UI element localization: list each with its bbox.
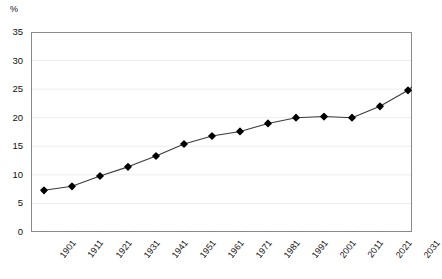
data-point-marker bbox=[377, 103, 383, 109]
x-tick-label: 1991 bbox=[310, 238, 330, 260]
x-tick-label: 2001 bbox=[338, 238, 358, 260]
data-point-marker bbox=[209, 133, 215, 139]
plot-frame bbox=[32, 33, 412, 232]
data-point-marker bbox=[349, 115, 355, 121]
data-point-marker bbox=[293, 115, 299, 121]
x-tick-label: 1981 bbox=[282, 238, 302, 260]
chart-plot-svg bbox=[31, 32, 412, 232]
x-tick-label: 2031 bbox=[422, 238, 442, 260]
x-tick-label: 1941 bbox=[170, 238, 190, 260]
data-point-marker bbox=[125, 164, 131, 170]
plot-area bbox=[31, 32, 412, 232]
data-point-markers bbox=[41, 63, 412, 193]
x-tick-label: 1921 bbox=[114, 238, 134, 260]
data-point-marker bbox=[237, 128, 243, 134]
data-series-line bbox=[44, 66, 412, 190]
x-tick-label: 1931 bbox=[142, 238, 162, 260]
x-tick-label: 2021 bbox=[394, 238, 414, 260]
plot-border bbox=[32, 33, 412, 232]
x-tick-label: 2011 bbox=[365, 238, 385, 259]
data-point-marker bbox=[41, 187, 47, 193]
data-point-marker bbox=[97, 173, 103, 179]
x-tick-label: 1901 bbox=[58, 238, 78, 260]
x-tick-label: 1971 bbox=[254, 238, 274, 260]
data-point-marker bbox=[265, 120, 271, 126]
data-point-marker bbox=[69, 183, 75, 189]
x-tick-label: 1961 bbox=[226, 238, 246, 260]
x-tick-label: 1951 bbox=[198, 238, 218, 260]
x-tick-label: 1911 bbox=[85, 238, 105, 259]
data-point-marker bbox=[153, 153, 159, 159]
data-point-marker bbox=[321, 113, 327, 119]
gridlines bbox=[32, 61, 411, 204]
